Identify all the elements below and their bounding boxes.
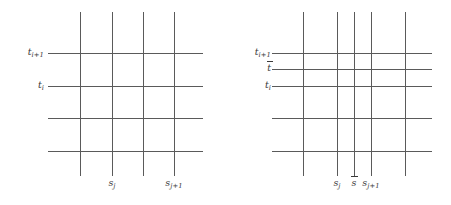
label-subscript: i+1 bbox=[32, 51, 45, 59]
label-base: t bbox=[267, 62, 271, 73]
overbar-icon bbox=[267, 61, 273, 62]
axis-label-s-j-plus-1: sj+1 bbox=[351, 178, 391, 190]
label-subscript: i bbox=[269, 84, 271, 92]
label-subscript: i bbox=[42, 84, 44, 92]
axis-label-t-i: ti bbox=[227, 80, 271, 92]
axis-label-t-bar: t bbox=[227, 63, 271, 73]
grid-figure: ti+1 ti sj sj+1 bbox=[0, 0, 451, 205]
axis-label-t-i-plus-1: ti+1 bbox=[227, 47, 271, 59]
axis-label-s-j-plus-1: sj+1 bbox=[150, 178, 198, 190]
axis-label-t-i: ti bbox=[0, 80, 44, 92]
right-grid-lines bbox=[225, 0, 451, 205]
left-grid-panel: ti+1 ti sj sj+1 bbox=[0, 0, 225, 205]
overbar-wrapper: t bbox=[267, 63, 271, 73]
axis-label-s-j: sj bbox=[88, 178, 136, 190]
overbar-icon bbox=[351, 176, 358, 177]
label-subscript: j bbox=[113, 182, 115, 190]
left-grid-lines bbox=[0, 0, 225, 205]
label-subscript: j+1 bbox=[170, 182, 182, 190]
right-grid-panel: ti+1 t ti sj s sj+1 bbox=[225, 0, 451, 205]
axis-label-t-i-plus-1: ti+1 bbox=[0, 47, 44, 59]
label-subscript: j+1 bbox=[367, 182, 379, 190]
label-subscript: i+1 bbox=[259, 51, 272, 59]
